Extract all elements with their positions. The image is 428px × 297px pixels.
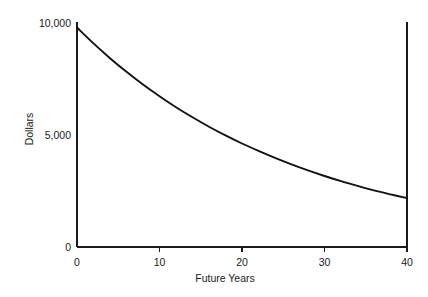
y-axis-title: Dollars: [23, 113, 35, 146]
chart-canvas: 010203040 05,00010,000 Future Years Doll…: [0, 0, 428, 297]
y-axis-tick-labels: 05,00010,000: [39, 17, 71, 253]
chart-figure: 010203040 05,00010,000 Future Years Doll…: [0, 0, 428, 297]
x-tick-label: 10: [154, 256, 166, 268]
x-tick-label: 30: [319, 256, 331, 268]
x-tick-label: 0: [74, 256, 80, 268]
data-series-line: [77, 27, 407, 198]
x-tick-label: 40: [401, 256, 413, 268]
x-axis-ticks: [160, 247, 325, 252]
y-tick-label: 10,000: [39, 17, 71, 29]
x-tick-label: 20: [236, 256, 248, 268]
x-axis-title: Future Years: [195, 272, 255, 284]
y-tick-label: 5,000: [45, 129, 71, 141]
y-tick-label: 0: [65, 241, 71, 253]
x-axis-tick-labels: 010203040: [74, 256, 413, 268]
